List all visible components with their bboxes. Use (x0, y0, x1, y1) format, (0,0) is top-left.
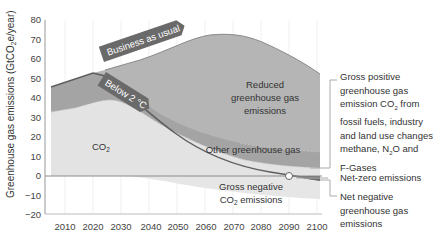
svg-text:2100: 2100 (306, 221, 327, 232)
svg-text:60: 60 (30, 53, 41, 64)
svg-text:70: 70 (30, 34, 41, 45)
svg-text:80: 80 (30, 14, 41, 25)
svg-text:−20: −20 (25, 209, 41, 220)
svg-text:Gross negative: Gross negative (219, 181, 283, 192)
y-axis-title: Greenhouse gas emissions (GtCO2e/year) (5, 10, 17, 198)
net-zero-annotation: Net-zero emissions (340, 171, 421, 185)
svg-text:greenhouse gas: greenhouse gas (231, 92, 299, 103)
y-tick-labels: 80 70 60 50 40 30 20 10 0 −10 −20 (25, 14, 41, 220)
x-tick-labels: 2010 2020 2030 2040 2050 2060 2070 2080 … (54, 221, 327, 232)
gross-positive-annotation: Gross positive greenhouse gas emission C… (340, 70, 433, 174)
svg-text:2030: 2030 (110, 221, 131, 232)
svg-text:2040: 2040 (140, 221, 161, 232)
svg-text:Reduced: Reduced (246, 79, 284, 90)
svg-text:30: 30 (30, 112, 41, 123)
svg-text:2050: 2050 (167, 221, 188, 232)
svg-text:10: 10 (30, 151, 41, 162)
gross-negative-label: Gross negative CO2 emissions (219, 181, 283, 206)
svg-text:CO2 emissions: CO2 emissions (220, 194, 283, 206)
svg-text:2090: 2090 (278, 221, 299, 232)
svg-text:50: 50 (30, 73, 41, 84)
svg-text:2080: 2080 (250, 221, 271, 232)
svg-text:2020: 2020 (82, 221, 103, 232)
svg-text:40: 40 (30, 92, 41, 103)
svg-text:2070: 2070 (223, 221, 244, 232)
net-negative-annotation: Net negative greenhouse gas emissions (340, 190, 408, 231)
svg-text:20: 20 (30, 131, 41, 142)
svg-text:emissions: emissions (244, 105, 286, 116)
svg-text:0: 0 (36, 170, 41, 181)
other-ghg-label: Other greenhouse gas (206, 144, 301, 155)
svg-text:2010: 2010 (54, 221, 75, 232)
svg-text:−10: −10 (25, 190, 41, 201)
net-zero-marker (286, 173, 293, 180)
svg-text:2060: 2060 (195, 221, 216, 232)
